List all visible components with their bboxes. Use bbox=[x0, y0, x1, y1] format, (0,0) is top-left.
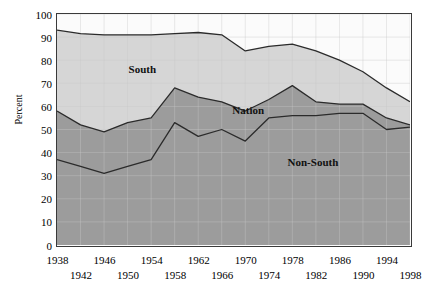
x-tick-label: 1954 bbox=[141, 254, 163, 266]
series-annotation-nation: Nation bbox=[232, 104, 264, 116]
y-tick-label: 70 bbox=[14, 78, 52, 89]
y-tick-label: 100 bbox=[14, 9, 52, 20]
x-tick-label: 1982 bbox=[305, 269, 327, 281]
y-tick-label: 80 bbox=[14, 55, 52, 66]
x-tick-label: 1994 bbox=[376, 254, 398, 266]
x-tick-label: 1938 bbox=[47, 254, 69, 266]
x-tick-label: 1974 bbox=[258, 269, 280, 281]
x-tick-label: 1990 bbox=[352, 269, 374, 281]
x-tick-label: 1970 bbox=[235, 254, 257, 266]
x-tick-label: 1950 bbox=[117, 269, 139, 281]
x-tick-label: 1998 bbox=[400, 269, 422, 281]
x-tick-label: 1942 bbox=[70, 269, 92, 281]
y-tick-label: 10 bbox=[14, 217, 52, 228]
x-tick-label: 1986 bbox=[329, 254, 351, 266]
y-tick-label: 50 bbox=[14, 125, 52, 136]
chart-page: Percent 1009080706050403020100 SouthNati… bbox=[0, 0, 424, 295]
y-tick-label: 20 bbox=[14, 194, 52, 205]
y-tick-label: 30 bbox=[14, 171, 52, 182]
x-tick-label: 1966 bbox=[211, 269, 233, 281]
x-tick-label: 1962 bbox=[188, 254, 210, 266]
plot-area: SouthNationNon-South bbox=[56, 13, 412, 247]
x-tick-label: 1958 bbox=[164, 269, 186, 281]
x-axis-tick-labels: 1938194219461950195419581962196619701974… bbox=[0, 249, 424, 295]
y-tick-label: 40 bbox=[14, 148, 52, 159]
x-tick-label: 1946 bbox=[94, 254, 116, 266]
series-annotation-south: South bbox=[129, 63, 157, 75]
y-tick-label: 60 bbox=[14, 101, 52, 112]
x-tick-label: 1978 bbox=[282, 254, 304, 266]
series-annotation-non-south: Non-South bbox=[288, 156, 339, 168]
area-chart-svg bbox=[57, 14, 410, 245]
y-tick-label: 90 bbox=[14, 32, 52, 43]
